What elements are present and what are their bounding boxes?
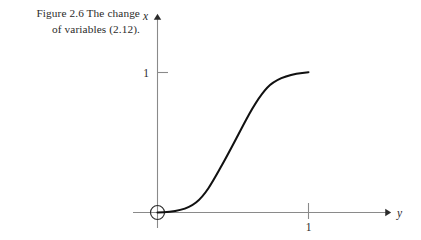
curve-change-of-variables <box>158 72 309 212</box>
y-axis-label: x <box>142 10 149 22</box>
x-axis-label: y <box>396 207 403 220</box>
y-tick-label-1: 1 <box>143 67 149 79</box>
plot-area: x y 1 1 <box>0 0 421 240</box>
figure-container: Figure 2.6 The change of variables (2.12… <box>0 0 421 240</box>
x-tick-label-1: 1 <box>306 221 312 233</box>
